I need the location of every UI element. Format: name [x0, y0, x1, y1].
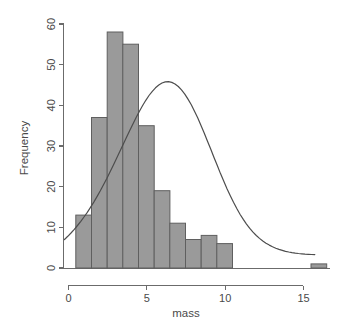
y-tick-label-10: 10: [45, 221, 57, 233]
bar-bin-8: [186, 240, 202, 269]
y-tick-label-50: 50: [45, 59, 57, 71]
bar-bin-10: [217, 244, 233, 268]
bar-bin-4: [123, 44, 139, 268]
y-tick-label-60: 60: [45, 18, 57, 30]
plot-canvas: 0 10 20 30 40 50 60 Frequency: [0, 0, 341, 323]
y-tick-label-0: 0: [45, 265, 57, 271]
x-axis: 0 5 10 15 mass: [65, 286, 309, 320]
bar-bin-7: [170, 223, 186, 268]
x-tick-label-15: 15: [297, 292, 309, 304]
bar-bin-5: [139, 126, 155, 268]
bar-bin-16: [311, 264, 327, 268]
y-axis-title: Frequency: [18, 121, 30, 176]
histogram-bars: [76, 32, 327, 268]
bar-bin-1: [76, 215, 92, 268]
x-tick-label-10: 10: [219, 292, 231, 304]
bar-bin-9: [201, 235, 217, 268]
y-tick-label-20: 20: [45, 181, 57, 193]
y-tick-label-40: 40: [45, 99, 57, 111]
y-axis: 0 10 20 30 40 50 60 Frequency: [18, 18, 64, 271]
bar-bin-6: [154, 191, 170, 268]
x-tick-label-5: 5: [144, 292, 150, 304]
y-tick-label-30: 30: [45, 140, 57, 152]
histogram-chart: 0 10 20 30 40 50 60 Frequency: [0, 0, 341, 323]
x-tick-label-0: 0: [65, 292, 71, 304]
x-axis-title: mass: [172, 307, 200, 319]
